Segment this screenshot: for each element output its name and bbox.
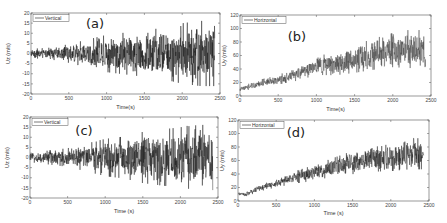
x-tick-label: 500 <box>65 95 74 101</box>
y-tick-label: 0 <box>26 154 29 160</box>
x-tick-label: 2000 <box>387 97 398 103</box>
legend-label: Vertical <box>44 119 60 125</box>
y-tick-label: 15 <box>23 124 29 130</box>
x-axis-label: Time(s) <box>116 104 135 110</box>
x-tick-label: 1000 <box>311 97 322 103</box>
x-tick-label: 500 <box>274 97 283 103</box>
legend-label: Vertical <box>45 15 61 21</box>
y-tick-label: 40 <box>231 171 237 177</box>
x-tick-label: 0 <box>29 199 32 205</box>
x-tick-label: 2500 <box>212 199 223 205</box>
x-tick-label: 500 <box>272 202 281 208</box>
y-tick-label: -20 <box>21 195 28 201</box>
x-tick-label: 1500 <box>139 95 150 101</box>
data-line-vertical <box>31 21 215 86</box>
legend-label: Horizontal <box>254 17 277 23</box>
panel-label: (d) <box>287 125 305 140</box>
y-tick-label: 5 <box>26 144 29 150</box>
x-tick-label: 1500 <box>349 97 360 103</box>
y-tick-label: 60 <box>231 157 237 163</box>
y-tick-label: 20 <box>23 114 29 120</box>
y-axis-label: Uy (m/s) <box>221 45 227 66</box>
y-tick-label: 15 <box>24 20 30 26</box>
legend-box: Horizontal <box>242 17 286 24</box>
data-line-horizontal <box>240 30 426 91</box>
subplot-a-vertical: 05001000150020002500-20-15-10-505101520T… <box>5 10 226 110</box>
y-tick-label: 10 <box>24 30 30 36</box>
y-tick-label: 20 <box>24 10 30 16</box>
x-axis-label: Time (s) <box>114 208 134 214</box>
figure-canvas: 05001000150020002500-20-15-10-505101520T… <box>0 0 447 223</box>
subplot-b-horizontal: 05001000150020002500020406080100120Time(… <box>221 12 437 112</box>
x-tick-label: 2000 <box>175 199 186 205</box>
x-axis-label: Time (s) <box>324 210 344 216</box>
x-tick-label: 0 <box>239 97 242 103</box>
y-tick-label: 0 <box>236 93 239 99</box>
x-tick-label: 2500 <box>423 202 434 208</box>
y-tick-label: 80 <box>233 39 239 45</box>
legend-box: Horizontal <box>240 122 284 129</box>
y-tick-label: 60 <box>233 52 239 58</box>
y-tick-label: 0 <box>27 50 30 56</box>
x-tick-label: 0 <box>30 95 33 101</box>
y-tick-label: 80 <box>231 144 237 150</box>
data-line-vertical <box>30 125 213 190</box>
x-tick-label: 1500 <box>137 199 148 205</box>
y-tick-label: 0 <box>234 198 237 204</box>
x-tick-label: 2000 <box>177 95 188 101</box>
x-tick-label: 1000 <box>100 199 111 205</box>
y-tick-label: -10 <box>22 70 29 76</box>
y-tick-label: -5 <box>25 60 30 66</box>
panel-label: (c) <box>75 123 92 138</box>
y-tick-label: -15 <box>22 81 29 87</box>
data-line-horizontal <box>238 138 424 196</box>
y-tick-label: 40 <box>233 66 239 72</box>
y-tick-label: -20 <box>22 91 29 97</box>
y-tick-label: -15 <box>21 185 28 191</box>
y-tick-label: 120 <box>228 117 237 123</box>
legend-box: Vertical <box>33 15 69 22</box>
x-tick-label: 1000 <box>309 202 320 208</box>
y-tick-label: 20 <box>233 79 239 85</box>
x-tick-label: 2500 <box>425 97 436 103</box>
x-tick-label: 2500 <box>214 95 225 101</box>
y-tick-label: -10 <box>21 174 28 180</box>
panel-label: (b) <box>288 29 306 44</box>
y-tick-label: 100 <box>230 25 239 31</box>
axes-frame <box>240 15 431 96</box>
y-tick-label: 120 <box>230 12 239 18</box>
subplot-c-vertical: 05001000150020002500-20-15-10-505101520T… <box>4 114 224 214</box>
panel-label: (a) <box>86 16 104 31</box>
y-tick-label: 20 <box>231 184 237 190</box>
y-axis-label: Uz (m/s) <box>5 43 11 64</box>
subplot-d-horizontal: 05001000150020002500020406080100120Time … <box>219 117 435 216</box>
y-tick-label: 5 <box>27 40 30 46</box>
legend-box: Vertical <box>32 119 68 126</box>
y-axis-label: Uz (m/s) <box>4 147 10 168</box>
x-tick-label: 0 <box>237 202 240 208</box>
legend-label: Horizontal <box>252 122 275 128</box>
x-tick-label: 2000 <box>385 202 396 208</box>
x-tick-label: 1500 <box>347 202 358 208</box>
x-tick-label: 500 <box>63 199 72 205</box>
y-axis-label: Uy (m/s) <box>219 150 225 171</box>
x-tick-label: 1000 <box>101 95 112 101</box>
x-axis-label: Time(s) <box>326 106 345 112</box>
y-tick-label: -5 <box>24 164 29 170</box>
y-tick-label: 10 <box>23 134 29 140</box>
y-tick-label: 100 <box>228 130 237 136</box>
